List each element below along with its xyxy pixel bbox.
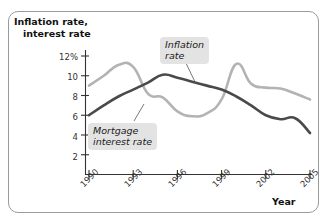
annotation-mortgage-interest-rate: Mortgage interest rate <box>88 123 157 150</box>
annotation-inflation-rate: Inflation rate <box>160 37 209 64</box>
annotation-inflation-line1: Inflation <box>165 39 204 50</box>
plot-area <box>0 0 329 224</box>
annotation-inflation-line2: rate <box>165 50 184 61</box>
leader-line-mortgage <box>134 104 144 121</box>
annotation-mortgage-line1: Mortgage <box>93 125 138 136</box>
chart-figure: Inflation rate, interest rate Year 12% 1… <box>0 0 329 224</box>
annotation-mortgage-line2: interest rate <box>93 136 152 147</box>
series-line-mortgage-interest-rate <box>89 63 310 117</box>
